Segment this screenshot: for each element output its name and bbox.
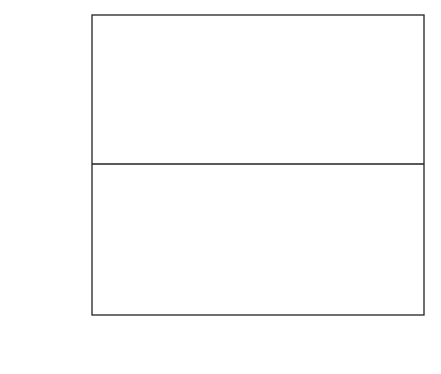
chart-figure — [0, 0, 441, 374]
plot-frames — [92, 15, 424, 315]
plot-border — [92, 15, 424, 315]
